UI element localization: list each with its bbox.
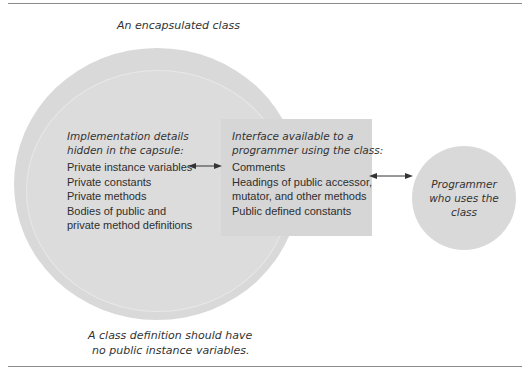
implementation-title-line2: hidden in the capsule: — [67, 143, 192, 157]
implementation-item: Bodies of public and — [67, 204, 192, 219]
bottom-divider — [8, 366, 522, 367]
double-arrow-icon — [188, 162, 222, 170]
implementation-item: Private methods — [67, 189, 192, 204]
interface-item: mutator, and other methods — [232, 189, 383, 204]
double-arrow-icon — [369, 172, 413, 180]
interface-items: Comments Headings of public accessor, mu… — [232, 160, 383, 218]
implementation-title-line1: Implementation details — [67, 129, 192, 143]
caption-line2: no public instance variables. — [92, 344, 250, 357]
implementation-item: Private instance variables — [67, 160, 192, 175]
interface-item: Headings of public accessor, — [232, 175, 383, 190]
implementation-section: Implementation details hidden in the cap… — [67, 129, 192, 233]
implementation-item: Private constants — [67, 175, 192, 190]
programmer-label: Programmer who uses the class — [419, 177, 509, 219]
caption-line1: A class definition should have — [88, 329, 252, 342]
interface-title-line1: Interface available to a — [232, 129, 383, 143]
top-divider — [8, 3, 522, 4]
interface-item: Comments — [232, 160, 383, 175]
programmer-node: Programmer who uses the class — [412, 146, 516, 250]
implementation-items: Private instance variables Private const… — [67, 160, 192, 233]
diagram-title: An encapsulated class — [117, 19, 240, 32]
interface-item: Public defined constants — [232, 204, 383, 219]
implementation-item: private method definitions — [67, 218, 192, 233]
interface-section: Interface available to a programmer usin… — [232, 129, 383, 218]
interface-title-line2: programmer using the class: — [232, 143, 383, 157]
